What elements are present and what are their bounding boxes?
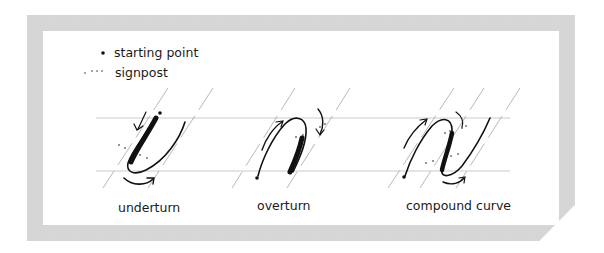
slant-lines: [103, 88, 520, 188]
compound-curve-label: compound curve: [406, 198, 511, 213]
underturn-label: underturn: [118, 200, 180, 215]
overturn-label: overturn: [257, 198, 311, 213]
signpost-dots-icon: [84, 70, 103, 74]
starting-point-dot-icon: [101, 51, 105, 55]
overturn-figure: [258, 109, 324, 176]
underturn-figure: [124, 112, 185, 184]
compound-curve-figure: [404, 112, 490, 184]
calligraphy-diagram: [0, 0, 604, 253]
